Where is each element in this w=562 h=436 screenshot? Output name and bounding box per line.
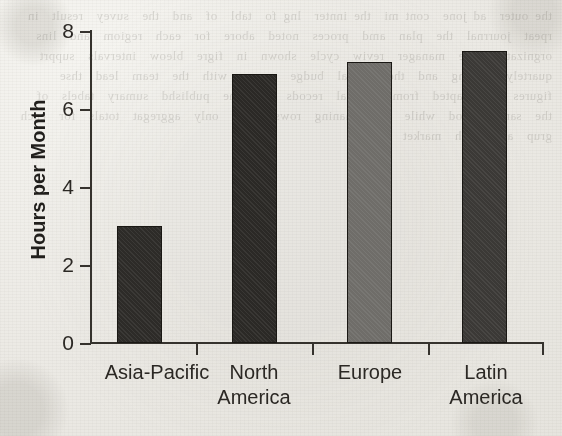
y-axis-title: Hours per Month: [27, 70, 50, 290]
y-tick-4: [80, 187, 91, 189]
x-tick-4: [542, 344, 544, 355]
bar-north-america[interactable]: [232, 74, 277, 343]
bar-chart: Hours per Month 8 6 4 2 0 Asia-Pacific N…: [0, 0, 562, 436]
y-tick-label-2: 2: [48, 253, 74, 277]
x-tick-2: [312, 344, 314, 355]
x-category-line: America: [429, 385, 543, 410]
x-category-line: Europe: [314, 360, 426, 385]
y-tick-label-4: 4: [48, 175, 74, 199]
x-category-label-europe: Europe: [314, 360, 426, 385]
x-category-label-latin-america: Latin America: [429, 360, 543, 410]
y-tick-2: [80, 265, 91, 267]
bar-asia-pacific[interactable]: [117, 226, 162, 343]
bar-texture: [233, 75, 276, 342]
x-category-line: North: [199, 360, 309, 385]
bar-texture: [463, 52, 506, 342]
bar-texture: [348, 63, 391, 342]
x-tick-1: [196, 344, 198, 355]
y-tick-0: [80, 343, 91, 345]
x-category-line: Latin: [429, 360, 543, 385]
y-tick-label-8: 8: [48, 19, 74, 43]
bar-latin-america[interactable]: [462, 51, 507, 343]
y-tick-label-6: 6: [48, 97, 74, 121]
bar-texture: [118, 227, 161, 342]
x-category-label-north-america: North America: [199, 360, 309, 410]
x-tick-3: [428, 344, 430, 355]
y-tick-6: [80, 109, 91, 111]
y-tick-label-0: 0: [48, 331, 74, 355]
x-category-line: America: [199, 385, 309, 410]
bar-europe[interactable]: [347, 62, 392, 343]
y-tick-8: [80, 31, 91, 33]
